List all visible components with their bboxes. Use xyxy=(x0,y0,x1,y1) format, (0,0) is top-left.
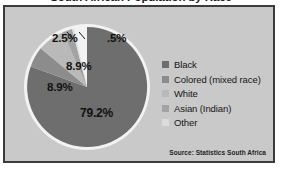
legend-item-colored: Colored (mixed race) xyxy=(162,73,274,88)
slice-label-white: 8.9% xyxy=(66,60,91,72)
slice-label-asian: 2.5% xyxy=(52,32,77,44)
legend-label: Asian (Indian) xyxy=(174,102,231,115)
chart-legend: Black Colored (mixed race) White Asian (… xyxy=(162,58,274,131)
pie-chart: 79.2% 8.9% 8.9% 2.5% .5% xyxy=(23,23,151,151)
chart-panel: 79.2% 8.9% 8.9% 2.5% .5% Black Colored (… xyxy=(3,5,275,163)
pie-svg xyxy=(23,23,151,151)
legend-item-black: Black xyxy=(162,58,274,73)
legend-swatch-icon xyxy=(162,76,169,83)
slice-label-colored: 8.9% xyxy=(47,81,72,93)
legend-item-asian: Asian (Indian) xyxy=(162,102,274,117)
legend-item-white: White xyxy=(162,87,274,102)
legend-label: Other xyxy=(174,116,197,129)
legend-swatch-icon xyxy=(162,119,169,126)
legend-label: White xyxy=(174,87,198,100)
source-attribution: Source: Statistics South Africa xyxy=(169,149,266,156)
slice-label-other: .5% xyxy=(107,32,126,44)
page-title: South African Population by Race xyxy=(0,0,282,4)
slice-label-black: 79.2% xyxy=(80,106,113,120)
legend-item-other: Other xyxy=(162,116,274,131)
legend-label: Colored (mixed race) xyxy=(174,73,261,86)
legend-swatch-icon xyxy=(162,90,169,97)
chart-plot-area: 79.2% 8.9% 8.9% 2.5% .5% Black Colored (… xyxy=(5,7,273,161)
legend-swatch-icon xyxy=(162,105,169,112)
chart-screenshot: South African Population by Race xyxy=(0,0,282,169)
legend-swatch-icon xyxy=(162,61,169,68)
legend-label: Black xyxy=(174,58,197,71)
